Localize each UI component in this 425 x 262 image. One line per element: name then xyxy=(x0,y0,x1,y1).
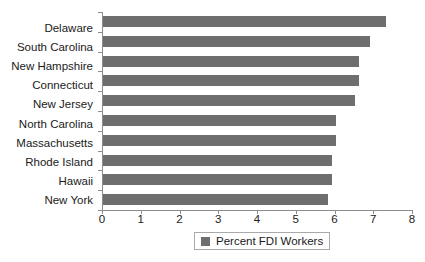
bar-chart: Delaware South Carolina New Hampshire Co… xyxy=(0,0,425,262)
bar-series xyxy=(103,12,413,210)
bar xyxy=(103,155,332,166)
category-label-hawaii: Hawaii xyxy=(0,172,97,191)
bar-row xyxy=(103,52,413,72)
category-label-delaware: Delaware xyxy=(0,19,97,38)
category-tick xyxy=(98,111,102,112)
bar-row xyxy=(103,151,413,171)
value-tick-label: 8 xyxy=(409,212,415,226)
bar xyxy=(103,135,336,146)
category-tick xyxy=(98,131,102,132)
bar-row xyxy=(103,111,413,131)
bar xyxy=(103,36,370,47)
category-tick xyxy=(98,52,102,53)
category-axis-labels: Delaware South Carolina New Hampshire Co… xyxy=(0,19,97,210)
category-label-new-york: New York xyxy=(0,191,97,210)
category-tick xyxy=(98,190,102,191)
category-label-north-carolina: North Carolina xyxy=(0,115,97,134)
category-tick xyxy=(98,71,102,72)
legend-label: Percent FDI Workers xyxy=(216,234,323,248)
bar xyxy=(103,75,359,86)
bar-row xyxy=(103,190,413,210)
bar xyxy=(103,95,355,106)
legend-swatch-icon xyxy=(201,237,210,246)
value-tick-label: 3 xyxy=(215,212,221,226)
bar-row xyxy=(103,91,413,111)
bar-row xyxy=(103,32,413,52)
value-tick-label: 1 xyxy=(138,212,144,226)
bar xyxy=(103,115,336,126)
bar-row xyxy=(103,131,413,151)
category-label-south-carolina: South Carolina xyxy=(0,38,97,57)
bar xyxy=(103,56,359,67)
category-label-new-jersey: New Jersey xyxy=(0,95,97,114)
category-tick xyxy=(98,151,102,152)
value-tick-label: 7 xyxy=(370,212,376,226)
chart-legend: Percent FDI Workers xyxy=(194,232,330,250)
bar xyxy=(103,174,332,185)
bar xyxy=(103,16,386,27)
category-label-new-hampshire: New Hampshire xyxy=(0,57,97,76)
category-tick xyxy=(98,12,102,13)
bar xyxy=(103,194,328,205)
value-axis-labels: 012345678 xyxy=(0,212,425,228)
bar-row xyxy=(103,170,413,190)
category-label-connecticut: Connecticut xyxy=(0,76,97,95)
bar-row xyxy=(103,12,413,32)
value-tick-label: 2 xyxy=(176,212,182,226)
bar-row xyxy=(103,71,413,91)
category-label-rhode-island: Rhode Island xyxy=(0,153,97,172)
category-tick xyxy=(98,32,102,33)
value-tick-label: 5 xyxy=(293,212,299,226)
value-tick-label: 4 xyxy=(254,212,260,226)
value-tick-label: 0 xyxy=(99,212,105,226)
category-tick xyxy=(98,91,102,92)
plot-area xyxy=(102,12,413,210)
category-label-massachusetts: Massachusetts xyxy=(0,134,97,153)
value-tick-label: 6 xyxy=(331,212,337,226)
category-tick xyxy=(98,170,102,171)
